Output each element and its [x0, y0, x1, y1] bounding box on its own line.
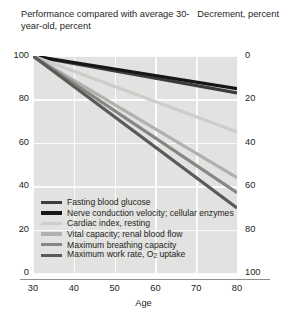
gridline-v [237, 56, 238, 273]
series-line [33, 56, 237, 132]
y-tick-left: 40 [3, 180, 29, 190]
legend-item: Maximum work rate, O2 uptake [41, 250, 234, 261]
x-tick: 60 [142, 283, 168, 293]
legend-item: Nerve conduction velocity; cellular enzy… [41, 208, 234, 219]
x-tick: 70 [183, 283, 209, 293]
y-tick-right: 0 [245, 50, 271, 60]
y-tick-right: 60 [245, 180, 271, 190]
legend: Fasting blood glucoseNerve conduction ve… [41, 197, 234, 261]
y-tick-right: 20 [245, 93, 271, 103]
x-axis-line [20, 279, 270, 280]
x-tick: 50 [102, 283, 128, 293]
legend-swatch [41, 232, 62, 235]
x-axis-label: Age [0, 298, 287, 308]
left-axis-title: Performance compared with average 30-yea… [21, 9, 191, 32]
legend-item: Fasting blood glucose [41, 197, 234, 208]
y-tick-right: 100 [245, 267, 271, 277]
legend-label: Cardiac index, resting [67, 218, 150, 228]
series-line [33, 56, 237, 208]
series-line [33, 56, 237, 89]
legend-swatch [41, 254, 62, 257]
legend-swatch [41, 222, 62, 225]
series-line [33, 56, 237, 193]
x-tick: 80 [224, 283, 250, 293]
y-tick-left: 20 [3, 224, 29, 234]
legend-swatch [41, 243, 62, 246]
y-tick-left: 0 [3, 267, 29, 277]
y-tick-left: 100 [3, 50, 29, 60]
legend-item: Cardiac index, resting [41, 218, 234, 229]
legend-item: Vital capacity; renal blood flow [41, 229, 234, 240]
legend-swatch [41, 211, 62, 214]
legend-label: Fasting blood glucose [67, 197, 151, 207]
legend-label: Nerve conduction velocity; cellular enzy… [67, 208, 234, 218]
y-tick-right: 80 [245, 224, 271, 234]
x-tick: 40 [61, 283, 87, 293]
x-tick: 30 [20, 283, 46, 293]
y-tick-left: 80 [3, 93, 29, 103]
gridline-h [33, 273, 237, 274]
legend-label: Maximum work rate, O2 uptake [67, 249, 185, 261]
figure: Performance compared with average 30-yea… [0, 0, 287, 317]
legend-swatch [41, 201, 62, 204]
y-tick-right: 40 [245, 137, 271, 147]
right-axis-title: Decrement, percent [187, 9, 279, 21]
y-tick-left: 60 [3, 137, 29, 147]
legend-label: Vital capacity; renal blood flow [67, 229, 182, 239]
